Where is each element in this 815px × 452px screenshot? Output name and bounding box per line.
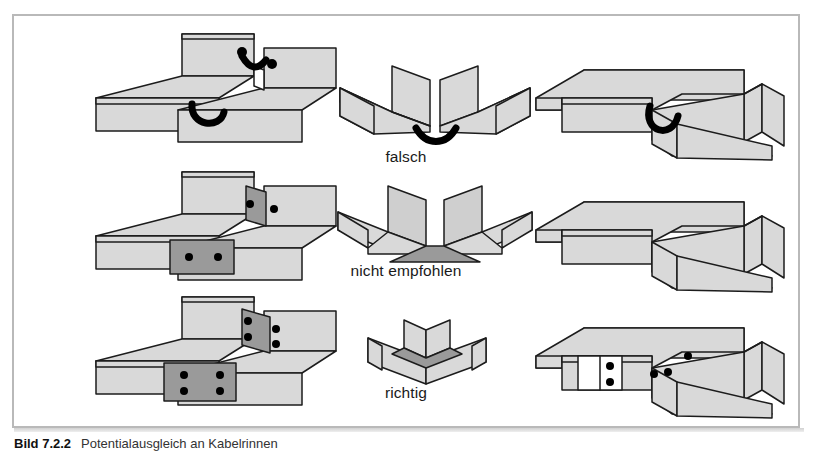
row-label-falsch: falsch — [276, 148, 536, 166]
figure-caption: Bild 7.2.2Potentialausgleich an Kabelrin… — [14, 436, 794, 451]
illustration-section-gap-jumper — [330, 42, 540, 142]
illustration-tee-joint-contact — [532, 168, 797, 296]
illustration-tee-joint-bolted — [532, 294, 802, 422]
figure-caption-text: Potentialausgleich an Kabelrinnen — [81, 436, 278, 451]
illustration-grid: falsch — [12, 14, 800, 428]
figure-root: falsch — [0, 0, 815, 452]
illustration-straight-joint-small-plate — [74, 164, 304, 284]
illustration-straight-joint-large-plate — [74, 289, 304, 409]
illustration-straight-joint-jumper — [74, 26, 304, 146]
figure-frame-shadow — [14, 428, 804, 432]
row-label-richtig: richtig — [276, 384, 536, 402]
row-label-nicht-empfohlen: nicht empfohlen — [276, 262, 536, 280]
illustration-tee-joint-jumper — [532, 36, 797, 164]
illustration-section-overlap-contact — [330, 174, 540, 270]
figure-caption-number: Bild 7.2.2 — [14, 436, 71, 451]
illustration-section-nested-full — [352, 314, 502, 392]
